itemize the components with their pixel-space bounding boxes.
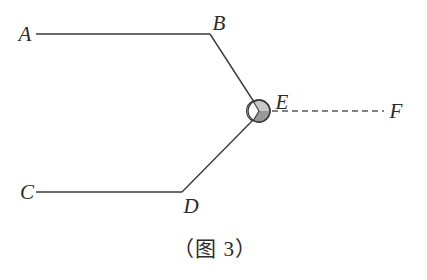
label-point-b: B (213, 13, 226, 34)
figure-caption: （图 3） (173, 232, 257, 262)
segment-de (182, 120, 253, 192)
label-point-d: D (183, 196, 198, 217)
ball-joint-e (247, 100, 270, 122)
label-point-a: A (19, 24, 32, 45)
label-point-f: F (390, 101, 403, 122)
label-point-c: C (20, 182, 34, 203)
segment-be (210, 34, 254, 102)
label-point-e: E (276, 92, 289, 113)
